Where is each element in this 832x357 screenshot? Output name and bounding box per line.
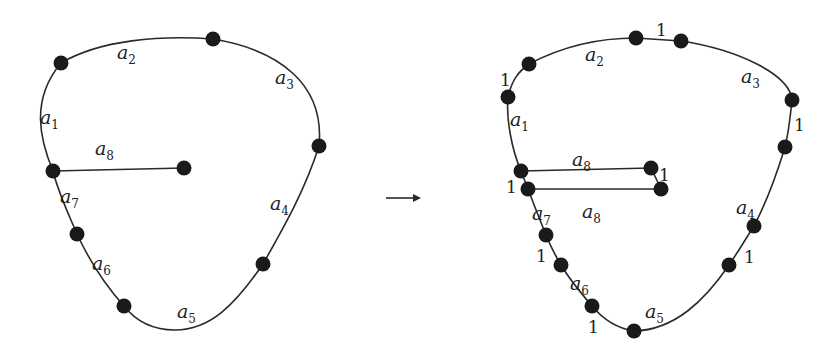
arc-label-a4: a4 xyxy=(736,196,755,222)
vertex-dot xyxy=(46,164,61,179)
right-arc-labels: a1a2a3a4a5a6a7a8a8 xyxy=(510,43,760,326)
vertex-dot xyxy=(177,161,192,176)
arc-label-a6: a6 xyxy=(92,252,111,278)
left-arc-labels: a1a2a3a4a5a6a7a8 xyxy=(40,41,294,326)
unit-length-label: 1 xyxy=(500,70,511,90)
arc-label-a8_bottom: a8 xyxy=(582,200,601,226)
arc-label-a5: a5 xyxy=(645,300,664,326)
unit-length-label: 1 xyxy=(656,20,667,40)
transform-arrow xyxy=(386,194,421,202)
vertex-dot xyxy=(554,258,569,273)
vertex-dot xyxy=(206,32,221,47)
vertex-dot xyxy=(54,56,69,71)
unit-length-label: 1 xyxy=(588,317,599,337)
vertex-dot xyxy=(785,93,800,108)
arc-label-a8: a8 xyxy=(95,137,114,163)
arc-label-a3: a3 xyxy=(741,65,760,91)
vertex-dot xyxy=(778,140,793,155)
right-graph: a1a2a3a4a5a6a7a8a8 11111111 xyxy=(500,20,805,339)
arc-label-a2: a2 xyxy=(585,43,604,69)
vertex-dot xyxy=(312,139,327,154)
vertex-dot xyxy=(501,90,516,105)
vertex-dot xyxy=(521,182,536,197)
vertex-dot xyxy=(674,34,689,49)
unit-length-label: 1 xyxy=(794,115,805,135)
arc-label-a1: a1 xyxy=(510,108,529,134)
unit-length-label: 1 xyxy=(536,246,547,266)
vertex-dot xyxy=(539,228,554,243)
left-edge-a8 xyxy=(53,168,184,171)
arc-label-a7: a7 xyxy=(60,185,79,211)
unit-length-label: 1 xyxy=(506,177,517,197)
vertex-dot xyxy=(627,324,642,339)
vertex-dot xyxy=(256,257,271,272)
vertex-dot xyxy=(644,161,659,176)
arc-label-a1: a1 xyxy=(40,106,59,132)
vertex-dot xyxy=(522,57,537,72)
arc-label-a4: a4 xyxy=(270,192,289,218)
arrow-head-icon xyxy=(413,194,421,202)
unit-length-label: 1 xyxy=(744,247,755,267)
vertex-dot xyxy=(722,258,737,273)
unit-length-label: 1 xyxy=(659,165,670,185)
arc-label-a5: a5 xyxy=(177,300,196,326)
left-graph: a1a2a3a4a5a6a7a8 xyxy=(40,32,327,331)
vertex-dot xyxy=(117,299,132,314)
diagram-canvas: a1a2a3a4a5a6a7a8 a1a2a3a4a5a6a7a8a8 1111… xyxy=(0,0,832,357)
vertex-dot xyxy=(585,299,600,314)
arc-label-a6: a6 xyxy=(570,272,589,298)
vertex-dot xyxy=(70,227,85,242)
arc-label-a2: a2 xyxy=(117,41,136,67)
arc-label-a3: a3 xyxy=(275,66,294,92)
vertex-dot xyxy=(629,31,644,46)
right-unit-labels: 11111111 xyxy=(500,20,805,337)
